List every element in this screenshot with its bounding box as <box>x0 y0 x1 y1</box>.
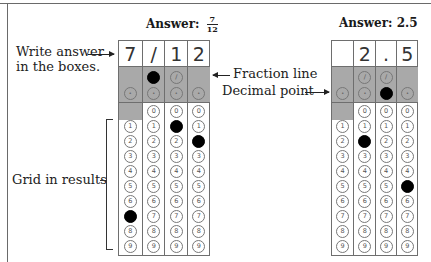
digit-bubble-1[interactable]: 1 <box>336 120 349 133</box>
digit-bubble-3[interactable]: 3 <box>358 150 371 163</box>
digit-bubble-8[interactable]: 8 <box>124 225 137 238</box>
digit-bubble-3[interactable]: 3 <box>192 150 205 163</box>
digit-bubble-7[interactable]: 7 <box>401 210 414 223</box>
digit-bubble-4[interactable]: 4 <box>147 165 160 178</box>
digit-bubble-6[interactable]: 6 <box>124 195 137 208</box>
digit-bubble-5[interactable]: 5 <box>401 180 414 193</box>
digit-bubble-9[interactable]: 9 <box>380 240 393 253</box>
digit-bubble-5[interactable]: 5 <box>192 180 205 193</box>
digit-bubble-2[interactable]: 2 <box>124 135 137 148</box>
digit-bubble-4[interactable]: 4 <box>380 165 393 178</box>
digit-bubble-0[interactable]: 0 <box>358 105 371 118</box>
digit-bubble-6[interactable]: 6 <box>170 195 183 208</box>
digit-bubble-4[interactable]: 4 <box>170 165 183 178</box>
digit-bubble-9[interactable]: 9 <box>401 240 414 253</box>
digit-bubble-9[interactable]: 9 <box>192 240 205 253</box>
digit-bubble-1[interactable]: 1 <box>380 120 393 133</box>
digit-bubble-9[interactable]: 9 <box>358 240 371 253</box>
digit-bubble-7[interactable]: 7 <box>380 210 393 223</box>
digit-bubble-8[interactable]: 8 <box>170 225 183 238</box>
digit-bubble-3[interactable]: 3 <box>170 150 183 163</box>
digit-bubble-9[interactable]: 9 <box>124 240 137 253</box>
digit-bubble-2[interactable]: 2 <box>147 135 160 148</box>
digit-bubble-3[interactable]: 3 <box>336 150 349 163</box>
digit-bubble-8[interactable]: 8 <box>336 225 349 238</box>
digit-bubble-5[interactable]: 5 <box>380 180 393 193</box>
digit-bubble-8[interactable]: 8 <box>380 225 393 238</box>
digit-bubble-1[interactable]: 1 <box>170 120 183 133</box>
digit-bubble-2[interactable]: 2 <box>380 135 393 148</box>
digit-bubble-7[interactable]: 7 <box>192 210 205 223</box>
digit-bubble-9[interactable]: 9 <box>147 240 160 253</box>
digit-bubble-6[interactable]: 6 <box>192 195 205 208</box>
digit-bubble-8[interactable]: 8 <box>401 225 414 238</box>
answer-entry-box[interactable]: / <box>143 41 166 67</box>
digit-bubble-3[interactable]: 3 <box>124 150 137 163</box>
answer-entry-box[interactable]: 1 <box>165 41 188 67</box>
digit-bubble-3[interactable]: 3 <box>401 150 414 163</box>
digit-bubble-1[interactable]: 1 <box>358 120 371 133</box>
digit-bubble-0[interactable]: 0 <box>192 105 205 118</box>
digit-bubble-5[interactable]: 5 <box>124 180 137 193</box>
digit-bubble-5[interactable]: 5 <box>336 180 349 193</box>
digit-bubble-0[interactable]: 0 <box>401 105 414 118</box>
dot-glyph: • <box>341 88 344 99</box>
digit-bubble-5[interactable]: 5 <box>358 180 371 193</box>
digit-bubble-5[interactable]: 5 <box>147 180 160 193</box>
digit-bubble-2[interactable]: 2 <box>192 135 205 148</box>
digit-bubble-6[interactable]: 6 <box>380 195 393 208</box>
fraction-denominator: 12 <box>207 25 218 34</box>
decimal-point-bubble[interactable]: • <box>380 87 393 100</box>
arrow-to-boxes-icon <box>88 54 114 55</box>
digit-bubble-0[interactable]: 0 <box>170 105 183 118</box>
digit-bubble-8[interactable]: 8 <box>358 225 371 238</box>
digit-bubble-4[interactable]: 4 <box>401 165 414 178</box>
answer-entry-box[interactable]: 2 <box>188 41 211 67</box>
digit-bubble-4[interactable]: 4 <box>336 165 349 178</box>
digit-bubble-6[interactable]: 6 <box>147 195 160 208</box>
digit-bubble-8[interactable]: 8 <box>192 225 205 238</box>
decimal-point-bubble[interactable]: • <box>124 87 137 100</box>
digit-bubble-7[interactable]: 7 <box>358 210 371 223</box>
digit-bubble-6[interactable]: 6 <box>401 195 414 208</box>
digit-bubble-3[interactable]: 3 <box>147 150 160 163</box>
digit-bubble-8[interactable]: 8 <box>147 225 160 238</box>
digit-bubble-4[interactable]: 4 <box>192 165 205 178</box>
digit-bubble-3[interactable]: 3 <box>380 150 393 163</box>
digit-bubble-9[interactable]: 9 <box>336 240 349 253</box>
digit-bubble-2[interactable]: 2 <box>336 135 349 148</box>
digit-bubble-9[interactable]: 9 <box>170 240 183 253</box>
digit-bubble-6[interactable]: 6 <box>336 195 349 208</box>
digit-bubble-7[interactable]: 7 <box>147 210 160 223</box>
fraction-slash-bubble[interactable]: / <box>170 71 183 84</box>
digit-bubble-2[interactable]: 2 <box>358 135 371 148</box>
digit-bubble-7[interactable]: 7 <box>170 210 183 223</box>
fraction-slash-bubble[interactable]: / <box>380 71 393 84</box>
digit-bubble-4[interactable]: 4 <box>358 165 371 178</box>
answer-entry-box[interactable]: 5 <box>397 41 418 67</box>
answer-grid-right: •1234567892/•0123456789./•01234567895•01… <box>331 40 418 256</box>
right-grid-column-4: 5•0123456789 <box>396 41 418 255</box>
right-grid-column-1: •123456789 <box>332 41 353 255</box>
answer-entry-box[interactable]: 2 <box>354 41 375 67</box>
digit-bubble-7[interactable]: 7 <box>336 210 349 223</box>
digit-bubble-0[interactable]: 0 <box>380 105 393 118</box>
left-grid-column-4: 2•0123456789 <box>187 41 211 255</box>
answer-entry-box[interactable]: . <box>376 41 397 67</box>
digit-bubble-1[interactable]: 1 <box>401 120 414 133</box>
digit-bubble-6[interactable]: 6 <box>358 195 371 208</box>
digit-bubble-2[interactable]: 2 <box>170 135 183 148</box>
digit-bubble-7[interactable]: 7 <box>124 210 137 223</box>
digit-bubble-2[interactable]: 2 <box>401 135 414 148</box>
decimal-point-bubble[interactable]: • <box>170 87 183 100</box>
digit-bubble-1[interactable]: 1 <box>124 120 137 133</box>
slash-glyph: / <box>385 72 387 83</box>
digit-bubble-5[interactable]: 5 <box>170 180 183 193</box>
answer-entry-box[interactable] <box>332 41 353 67</box>
digit-bubble-1[interactable]: 1 <box>147 120 160 133</box>
digit-bubble-0[interactable]: 0 <box>147 105 160 118</box>
digit-bubble-1[interactable]: 1 <box>192 120 205 133</box>
digit-bubble-4[interactable]: 4 <box>124 165 137 178</box>
decimal-point-bubble[interactable]: • <box>401 87 414 100</box>
answer-entry-box[interactable]: 7 <box>119 41 142 67</box>
